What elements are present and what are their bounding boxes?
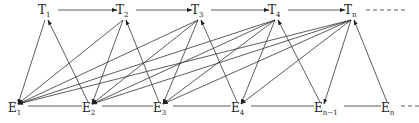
arrow-T3-to-E3: [163, 20, 198, 104]
node-t2: T2: [116, 3, 128, 19]
node-e4: E4: [231, 101, 245, 117]
graph-svg: T1T2T3T4TnE1E2E3E4En−1En: [0, 0, 419, 123]
node-en: En: [381, 101, 395, 117]
arrow-E2-to-T1: [48, 20, 88, 102]
node-en-1: En−1: [314, 101, 338, 117]
arrow-Tn-to-E1: [18, 20, 351, 104]
arrow-E3-to-T2: [126, 20, 159, 102]
arrow-T1-to-E1: [18, 20, 45, 104]
arrow-En-to-Tn: [354, 20, 387, 102]
arrow-E4-to-T3: [201, 20, 237, 102]
node-t1: T1: [38, 3, 50, 19]
edges-layer: [18, 10, 419, 106]
arrow-T4-to-E1: [18, 20, 275, 104]
arrow-Tn-to-En-1: [324, 20, 351, 104]
node-t3: T3: [191, 3, 203, 19]
diagram-canvas: T1T2T3T4TnE1E2E3E4En−1En: [0, 0, 419, 123]
node-tn: Tn: [344, 3, 357, 19]
node-t4: T4: [268, 3, 281, 19]
